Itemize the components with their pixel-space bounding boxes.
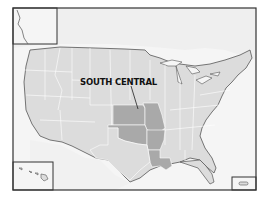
- us-region-map: [0, 0, 268, 201]
- region-label-south-central: SOUTH CENTRAL: [80, 77, 157, 87]
- puerto-rico-island: [239, 182, 248, 185]
- hawaii-inset: [13, 162, 53, 190]
- alaska-inset: [13, 8, 57, 44]
- puerto-rico-inset: [232, 177, 256, 190]
- state-kansas: [113, 105, 145, 125]
